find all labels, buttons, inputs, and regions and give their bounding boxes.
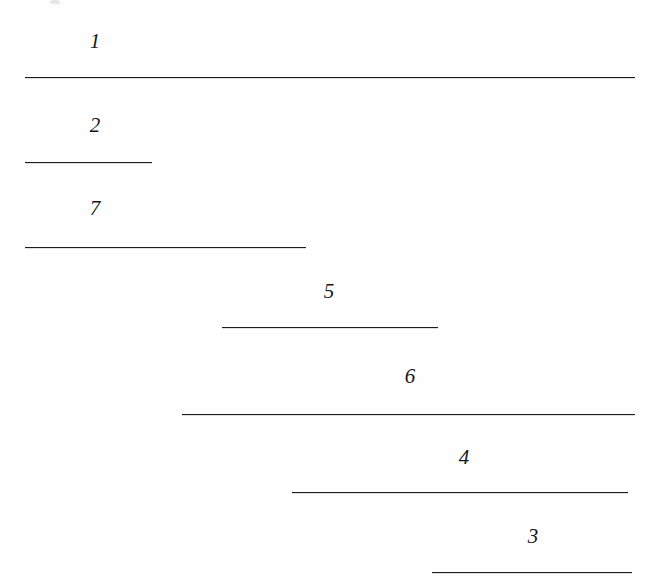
interval-label-4: 4 (459, 447, 470, 468)
interval-label-7: 7 (90, 198, 101, 219)
interval-label-5: 5 (324, 281, 335, 302)
interval-label-2: 2 (90, 115, 101, 136)
interval-line-2 (25, 162, 152, 163)
interval-line-1 (25, 77, 635, 78)
interval-line-5 (222, 327, 438, 328)
interval-line-6 (182, 414, 635, 415)
scan-artifact-speck (50, 0, 60, 4)
interval-line-4 (292, 492, 628, 493)
interval-line-7 (25, 247, 306, 248)
figure-canvas: 1275643 (0, 0, 660, 584)
interval-line-3 (432, 572, 632, 573)
interval-label-6: 6 (405, 366, 416, 387)
interval-label-3: 3 (528, 526, 539, 547)
interval-label-1: 1 (90, 31, 101, 52)
